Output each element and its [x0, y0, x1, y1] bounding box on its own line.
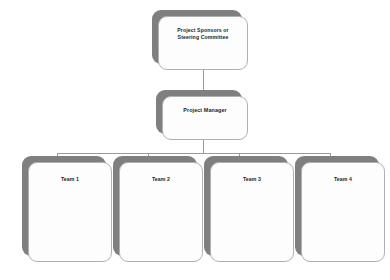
node-face	[162, 96, 248, 140]
node-team-3[interactable]: Team 3	[210, 162, 294, 262]
node-team-4[interactable]: Team 4	[301, 162, 385, 262]
node-label-line-2: Steering Committee	[158, 34, 248, 41]
node-face	[158, 16, 248, 70]
node-team-2[interactable]: Team 2	[119, 162, 203, 262]
node-label-team-2: Team 2	[119, 176, 203, 183]
connector-manager-stem	[203, 140, 204, 153]
node-label-project-manager: Project Manager	[162, 107, 248, 114]
org-chart-canvas: Project Sponsors or Steering Committee P…	[0, 0, 390, 280]
node-project-manager[interactable]: Project Manager	[162, 96, 248, 140]
node-label-team-3: Team 3	[210, 176, 294, 183]
node-label-team-4: Team 4	[301, 176, 385, 183]
connector-horizontal-bus	[57, 153, 331, 154]
node-team-1[interactable]: Team 1	[28, 162, 112, 262]
node-project-sponsors[interactable]: Project Sponsors or Steering Committee	[158, 16, 248, 70]
node-label-team-1: Team 1	[28, 176, 112, 183]
node-label-line-1: Project Sponsors or	[158, 27, 248, 34]
node-label-project-sponsors: Project Sponsors or Steering Committee	[158, 27, 248, 41]
